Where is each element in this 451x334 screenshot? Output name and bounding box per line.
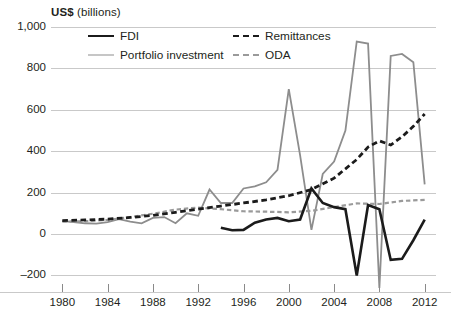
x-axis-tick-label: 1980 — [50, 296, 76, 309]
x-axis-tick-label: 1984 — [95, 296, 121, 309]
x-axis-tick-label: 1992 — [185, 296, 211, 309]
x-axis-ticks — [51, 284, 436, 292]
x-axis-tick — [153, 284, 154, 292]
line-swatch-icon — [88, 49, 114, 61]
x-axis-labels: 198019841988199219962000200420082012 — [51, 296, 436, 312]
x-axis-tick — [379, 284, 380, 292]
x-axis-tick — [198, 284, 199, 292]
x-axis-tick-label: 2000 — [276, 296, 302, 309]
y-axis-tick-label: 0 — [40, 228, 46, 240]
x-axis-tick — [425, 284, 426, 292]
x-axis-tick-label: 2008 — [367, 296, 393, 309]
y-axis-tick-label: 600 — [27, 104, 46, 116]
y-axis-tick-label: 400 — [27, 145, 46, 157]
chart-legend: FDI Portfolio investment Remittances ODA — [88, 29, 348, 67]
dashed-line-swatch-icon — [233, 49, 259, 61]
x-axis-tick-label: 1988 — [140, 296, 166, 309]
axis-unit-currency: US$ — [51, 6, 74, 18]
line-swatch-icon — [88, 30, 114, 42]
y-axis-tick-label: 200 — [27, 187, 46, 199]
legend-label-fdi: FDI — [120, 29, 139, 43]
x-axis-tick — [334, 284, 335, 292]
x-axis-tick-label: 2012 — [412, 296, 438, 309]
x-axis-tick-label: 2004 — [321, 296, 347, 309]
legend-label-remittances: Remittances — [265, 29, 331, 43]
axis-unit-scale: (billions) — [74, 6, 121, 18]
y-axis-tick-label: 800 — [27, 62, 46, 74]
legend-item-portfolio-investment[interactable]: Portfolio investment — [88, 48, 224, 62]
x-axis-line — [0, 292, 451, 293]
x-axis-tick-label: 1996 — [231, 296, 257, 309]
y-axis-tick-label: 1,000 — [17, 21, 46, 33]
dashed-line-swatch-icon — [233, 30, 259, 42]
y-axis-labels: –20002004006008001,000 — [0, 27, 46, 292]
legend-label-oda: ODA — [265, 48, 291, 62]
x-axis-tick — [289, 284, 290, 292]
legend-item-oda[interactable]: ODA — [233, 48, 291, 62]
x-axis-tick — [108, 284, 109, 292]
series-line-portfolio-investment — [62, 41, 424, 287]
x-axis-tick — [62, 284, 63, 292]
chart-figure: US$ (billions) –20002004006008001,000 19… — [0, 0, 451, 334]
legend-item-fdi[interactable]: FDI — [88, 29, 139, 43]
axis-unit-title: US$ (billions) — [51, 6, 121, 18]
y-axis-tick-label: –200 — [20, 269, 46, 281]
legend-item-remittances[interactable]: Remittances — [233, 29, 331, 43]
x-axis-tick — [244, 284, 245, 292]
legend-label-portfolio-investment: Portfolio investment — [120, 48, 224, 62]
